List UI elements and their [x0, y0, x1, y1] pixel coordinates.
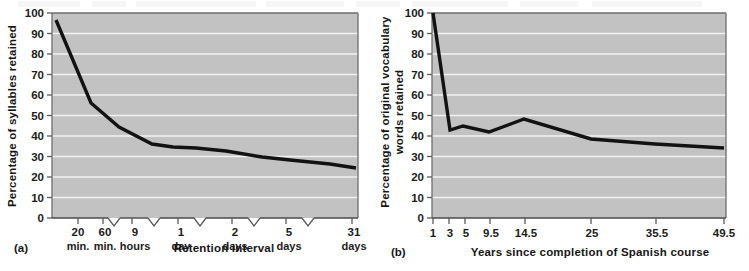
chart-svg-a: 100 90 80 70 60 50 40 30 20 10 0 Percent…	[0, 0, 375, 271]
x-tick-labels-b: 1 3 5 9.5 14.5 25 35.5 49.5	[430, 227, 736, 239]
y-axis-title-b-line2: words retained	[393, 70, 405, 156]
y-tick-label: 0	[418, 212, 424, 224]
y-tick-label: 10	[31, 192, 44, 204]
x-tick-label: 25	[586, 227, 599, 239]
x-tick-label-line2: days	[276, 240, 301, 252]
x-tick-label: 35.5	[646, 227, 669, 239]
x-axis-a	[52, 218, 358, 226]
x-tick-label: 5	[463, 227, 470, 239]
x-tick-label-line2: min.	[94, 240, 117, 252]
x-tick-label: 3	[447, 227, 453, 239]
y-tick-label: 50	[31, 110, 44, 122]
x-tick-label-line2: min.	[67, 240, 90, 252]
y-tick-label: 90	[31, 28, 44, 40]
y-tick-label: 90	[411, 28, 424, 40]
y-tick-label: 100	[25, 7, 44, 19]
y-tick-label: 30	[411, 151, 424, 163]
x-tick-label: 9.5	[483, 227, 500, 239]
x-tick-label-line1: 31	[348, 226, 361, 238]
x-tick-label-line2: hours	[120, 240, 151, 252]
y-tick-label: 20	[31, 171, 44, 183]
chart-panel-b: 100 90 80 70 60 50 40 30 20 10 0 Percent…	[375, 0, 749, 271]
x-tick-label-line1: 60	[99, 226, 112, 238]
y-tick-labels-b: 100 90 80 70 60 50 40 30 20 10 0	[405, 7, 424, 224]
panel-letter-a: (a)	[14, 242, 28, 254]
panel-letter-b: (b)	[391, 246, 406, 258]
x-axis-title-b: Years since completion of Spanish course	[471, 246, 710, 258]
y-tick-label: 20	[411, 171, 424, 183]
x-tick-label-line1: 1	[178, 226, 185, 238]
x-tick-label-line2: days	[341, 240, 366, 252]
chart-svg-b: 100 90 80 70 60 50 40 30 20 10 0 Percent…	[375, 0, 749, 271]
y-tick-label: 40	[31, 130, 44, 142]
y-tick-labels-a: 100 90 80 70 60 50 40 30 20 10 0	[25, 7, 44, 224]
x-tickmarks-b	[433, 218, 724, 224]
y-tick-label: 40	[411, 130, 424, 142]
y-tickmarks-b	[427, 13, 432, 218]
y-tick-label: 80	[31, 48, 44, 60]
y-axis-title-a: Percentage of syllables retained	[6, 25, 18, 207]
y-axis-title-b: Percentage of original vocabulary words …	[379, 16, 405, 208]
y-tick-label: 0	[38, 212, 44, 224]
y-tick-label: 10	[411, 192, 424, 204]
x-tick-label-line1: 20	[72, 226, 85, 238]
y-tick-label: 60	[31, 89, 44, 101]
x-tick-label-line1: 5	[286, 226, 293, 238]
y-tick-label: 50	[411, 110, 424, 122]
x-tick-label: 49.5	[713, 227, 736, 239]
x-tick-label-line1: 9	[132, 226, 138, 238]
y-tick-label: 80	[411, 48, 424, 60]
x-tick-label-line1: 2	[232, 226, 238, 238]
y-axis-title-b-line1: Percentage of original vocabulary	[379, 16, 391, 208]
x-tick-label: 14.5	[515, 227, 538, 239]
y-tick-label: 70	[411, 69, 424, 81]
y-tickmarks-a	[47, 13, 52, 218]
chart-panel-a: 100 90 80 70 60 50 40 30 20 10 0 Percent…	[0, 0, 375, 271]
y-tick-label: 70	[31, 69, 44, 81]
y-tick-label: 100	[405, 7, 424, 19]
x-tick-label: 1	[430, 227, 437, 239]
x-axis-title-a: Retention interval	[174, 242, 275, 254]
y-tick-label: 60	[411, 89, 424, 101]
y-tick-label: 30	[31, 151, 44, 163]
